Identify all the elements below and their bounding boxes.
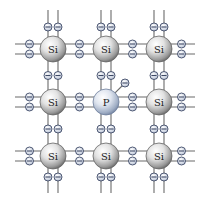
electron-icon [97, 173, 105, 181]
electron-icon [178, 157, 186, 165]
atom-label: Si [101, 151, 111, 162]
atom-label: P [103, 97, 110, 108]
silicon-atom: Si [40, 36, 66, 62]
electron-icon [76, 50, 84, 58]
silicon-atom: Si [40, 143, 66, 169]
silicon-atom: Si [146, 143, 172, 169]
atom-label: Si [48, 97, 58, 108]
silicon-atom: Si [93, 36, 119, 62]
silicon-atom: Si [93, 143, 119, 169]
electron-icon [97, 23, 105, 31]
electron-icon [44, 72, 52, 80]
atom-label: Si [48, 44, 58, 55]
electron-icon [160, 173, 168, 181]
electron-icon [26, 157, 34, 165]
electron-icon [107, 72, 115, 80]
phosphorus-atom: P [93, 89, 119, 115]
electron-icon [54, 23, 62, 31]
silicon-atom: Si [146, 36, 172, 62]
atom-label: Si [48, 151, 58, 162]
electron-icon [160, 72, 168, 80]
electron-icon [178, 50, 186, 58]
electron-icon [54, 125, 62, 133]
electron-icon [76, 157, 84, 165]
electron-icon [54, 173, 62, 181]
electron-icon [97, 72, 105, 80]
electron-icon [178, 103, 186, 111]
electron-icon [26, 147, 34, 155]
electron-icon [129, 50, 137, 58]
atoms: SiSiSiSiPSiSiSiSi [40, 36, 172, 169]
electron-icon [150, 23, 158, 31]
electron-icon [178, 147, 186, 155]
electron-icon [129, 93, 137, 101]
electron-icon [26, 103, 34, 111]
electron-icon [97, 125, 105, 133]
electron-icon [107, 125, 115, 133]
electron-icon [178, 93, 186, 101]
free-electron-icon [121, 79, 129, 87]
electron-icon [44, 23, 52, 31]
electron-icon [26, 93, 34, 101]
electron-icon [44, 173, 52, 181]
electron-icon [129, 157, 137, 165]
silicon-atom: Si [146, 89, 172, 115]
electron-icon [76, 103, 84, 111]
electron-icon [129, 147, 137, 155]
electron-icon [54, 72, 62, 80]
silicon-atom: Si [40, 89, 66, 115]
electron-icon [150, 173, 158, 181]
electron-icon [160, 125, 168, 133]
atom-label: Si [154, 44, 164, 55]
electron-icon [44, 125, 52, 133]
electron-icon [76, 93, 84, 101]
atom-label: Si [154, 151, 164, 162]
electron-icon [26, 40, 34, 48]
electron-icon [129, 40, 137, 48]
silicon-lattice-diagram: SiSiSiSiPSiSiSiSi [0, 0, 210, 215]
electron-icon [150, 72, 158, 80]
atom-label: Si [101, 44, 111, 55]
electron-icon [129, 103, 137, 111]
electron-icon [178, 40, 186, 48]
atom-label: Si [154, 97, 164, 108]
electron-icon [150, 125, 158, 133]
electron-icon [76, 147, 84, 155]
electron-icon [76, 40, 84, 48]
electron-icon [107, 23, 115, 31]
electron-icon [160, 23, 168, 31]
electron-icon [26, 50, 34, 58]
electron-icon [107, 173, 115, 181]
